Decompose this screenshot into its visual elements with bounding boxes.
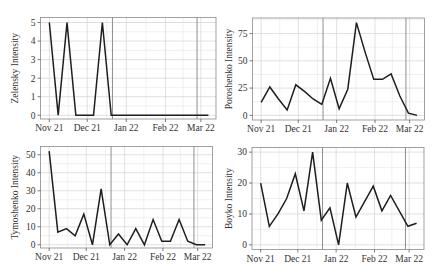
x-tick-label: Nov 21: [247, 124, 275, 134]
y-tick-label: 10: [238, 209, 248, 219]
y-axis-title: Zelensky Intensity: [10, 33, 20, 104]
x-tick-label: Nov 21: [35, 123, 63, 133]
x-tick-label: Feb 22: [150, 252, 176, 262]
x-tick-label: Jan 22: [324, 124, 349, 134]
x-tick-label: Jan 22: [324, 254, 349, 264]
y-tick-label: 20: [238, 178, 248, 188]
y-tick-label: 1: [31, 92, 36, 102]
chart-panel-tymoshenko: 01020304050Nov 21Dec 21Jan 22Feb 22Mar 2…: [10, 147, 212, 263]
plot-area: 0255075Nov 21Dec 21Jan 22Feb 22Mar 22: [238, 18, 425, 134]
figure: 012345Nov 21Dec 21Jan 22Feb 22Mar 22 Zel…: [0, 0, 435, 277]
y-tick-label: 4: [31, 36, 36, 46]
y-tick-label: 30: [238, 147, 248, 157]
x-tick-label: Nov 21: [35, 252, 63, 262]
panel-background: [41, 147, 213, 249]
y-tick-label: 0: [31, 240, 36, 250]
x-tick-label: Mar 22: [187, 123, 215, 133]
y-tick-label: 0: [243, 111, 248, 121]
x-tick-label: Dec 21: [74, 123, 101, 133]
x-tick-label: Dec 21: [285, 124, 312, 134]
x-tick-label: Dec 21: [73, 252, 100, 262]
x-tick-label: Mar 22: [395, 254, 423, 264]
x-tick-label: Jan 22: [112, 252, 137, 262]
y-tick-label: 50: [238, 56, 248, 66]
plot-area: 0102030Nov 21Dec 21Jan 22Feb 22Mar 22: [238, 147, 425, 263]
x-tick-label: Nov 21: [247, 254, 275, 264]
y-tick-label: 2: [31, 74, 36, 84]
plot-area: 012345Nov 21Dec 21Jan 22Feb 22Mar 22: [31, 18, 216, 134]
x-tick-label: Feb 22: [362, 124, 388, 134]
y-tick-label: 5: [31, 18, 36, 28]
y-tick-label: 25: [238, 83, 248, 93]
y-tick-label: 40: [26, 168, 36, 178]
panel-background: [41, 18, 217, 120]
chart-panel-poroshenko: 0255075Nov 21Dec 21Jan 22Feb 22Mar 22 Po…: [224, 18, 424, 134]
chart-panel-boyko: 0102030Nov 21Dec 21Jan 22Feb 22Mar 22 Bo…: [224, 147, 424, 263]
y-tick-label: 20: [26, 204, 36, 214]
y-tick-label: 50: [26, 150, 36, 160]
x-tick-label: Feb 22: [361, 254, 387, 264]
x-tick-label: Dec 21: [284, 254, 311, 264]
y-tick-label: 30: [26, 186, 36, 196]
y-axis-title: Boyko Intensity: [224, 168, 234, 229]
x-tick-label: Feb 22: [152, 123, 178, 133]
x-tick-label: Jan 22: [114, 123, 139, 133]
plot-area: 01020304050Nov 21Dec 21Jan 22Feb 22Mar 2…: [26, 147, 213, 263]
y-tick-label: 10: [26, 222, 36, 232]
y-tick-label: 75: [238, 29, 248, 39]
y-axis-title: Poroshenko Intensity: [224, 29, 234, 110]
y-axis-title: Tymoshenko Intensity: [10, 155, 20, 240]
y-tick-label: 0: [31, 111, 36, 121]
chart-panel-zelensky: 012345Nov 21Dec 21Jan 22Feb 22Mar 22 Zel…: [10, 18, 216, 134]
x-tick-label: Mar 22: [184, 252, 212, 262]
y-tick-label: 0: [242, 240, 247, 250]
y-tick-label: 3: [31, 55, 36, 65]
x-tick-label: Mar 22: [396, 124, 424, 134]
